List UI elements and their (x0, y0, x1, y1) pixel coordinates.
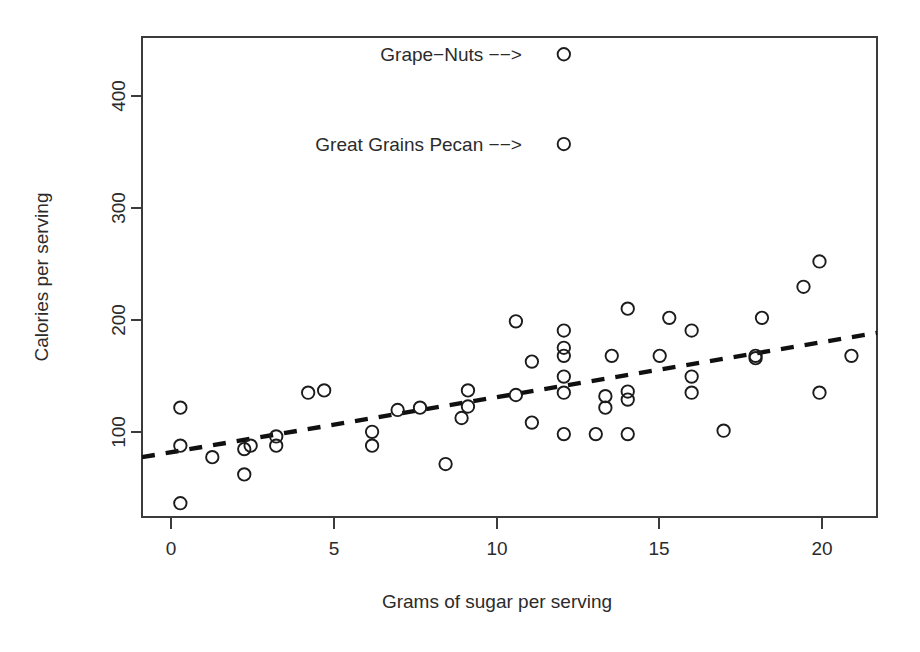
scatter-plot-figure: 400 300 200 100 0 5 10 15 20 Grams of su… (0, 0, 920, 652)
data-point (302, 386, 314, 398)
data-point (558, 386, 570, 398)
data-point (526, 355, 538, 367)
y-axis-title: Calories per serving (31, 193, 52, 362)
data-point (558, 324, 570, 336)
y-tick-label-200: 200 (108, 304, 129, 336)
data-point (558, 138, 570, 150)
data-point (717, 424, 729, 436)
data-point (813, 386, 825, 398)
data-point (622, 385, 634, 397)
data-point (599, 390, 611, 402)
x-tick-label-15: 15 (648, 538, 669, 559)
data-point (622, 302, 634, 314)
data-point (174, 439, 186, 451)
data-point (206, 451, 218, 463)
data-point (599, 401, 611, 413)
data-point (558, 48, 570, 60)
data-point (685, 370, 697, 382)
annotation-grape-nuts: Grape−Nuts −−> (380, 44, 522, 65)
data-point (238, 468, 250, 480)
data-point (462, 384, 474, 396)
data-point (414, 401, 426, 413)
y-axis-ticks (131, 96, 142, 432)
data-point (526, 416, 538, 428)
data-point (756, 312, 768, 324)
x-tick-label-20: 20 (811, 538, 832, 559)
y-tick-label-300: 300 (108, 192, 129, 224)
data-point (590, 428, 602, 440)
data-point (813, 255, 825, 267)
data-point (663, 312, 675, 324)
data-point (558, 342, 570, 354)
x-axis-title: Grams of sugar per serving (382, 591, 612, 612)
data-point (366, 426, 378, 438)
x-tick-label-0: 0 (166, 538, 177, 559)
data-point (654, 350, 666, 362)
y-tick-label-400: 400 (108, 80, 129, 112)
data-point (366, 439, 378, 451)
data-point (510, 315, 522, 327)
data-point (174, 401, 186, 413)
data-point (318, 384, 330, 396)
plot-canvas: 400 300 200 100 0 5 10 15 20 Grams of su… (0, 0, 920, 652)
annotation-great-grains-pecan: Great Grains Pecan −−> (315, 134, 521, 155)
data-point (845, 350, 857, 362)
data-point (622, 428, 634, 440)
x-tick-label-5: 5 (329, 538, 340, 559)
data-point (606, 350, 618, 362)
x-tick-label-10: 10 (486, 538, 507, 559)
data-point (455, 412, 467, 424)
data-point (510, 389, 522, 401)
data-point (462, 400, 474, 412)
plot-frame (142, 37, 877, 517)
data-point (685, 324, 697, 336)
y-tick-label-100: 100 (108, 416, 129, 448)
data-point (558, 370, 570, 382)
data-point (174, 497, 186, 509)
data-points-layer (174, 48, 857, 509)
y-axis-tick-labels: 400 300 200 100 (108, 80, 129, 448)
data-point (439, 458, 451, 470)
x-axis-tick-labels: 0 5 10 15 20 (166, 538, 833, 559)
data-point (685, 386, 697, 398)
x-axis-ticks (171, 517, 822, 529)
data-point (797, 281, 809, 293)
data-point (558, 428, 570, 440)
data-point (391, 404, 403, 416)
